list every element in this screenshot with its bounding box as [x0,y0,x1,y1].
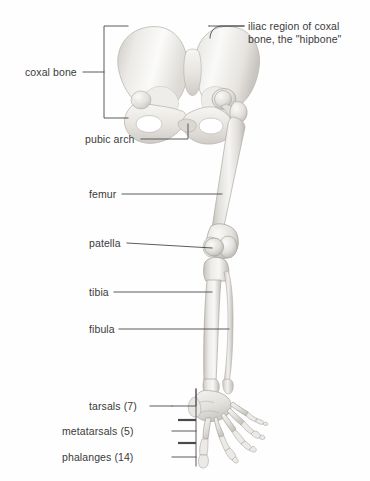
label-phalanges: phalanges (14) [62,451,133,464]
leader-patella [127,243,212,248]
label-metatarsals: metatarsals (5) [62,425,134,438]
foot-bones-group [188,390,268,468]
label-fibula: fibula [89,323,115,336]
anatomy-diagram-figure: iliac region of coxal bone, the "hipbone… [0,0,370,481]
label-iliac-region-line1: iliac region of coxal [248,20,339,32]
label-iliac-region-line2: bone, the "hipbone" [248,33,341,45]
fibula-bone [223,271,234,394]
label-tibia: tibia [89,286,109,299]
label-pubic-arch: pubic arch [85,133,134,146]
label-coxal-bone: coxal bone [25,66,77,79]
label-patella: patella [89,237,121,250]
label-iliac-region: iliac region of coxal bone, the "hipbone… [248,20,366,46]
label-tarsals: tarsals (7) [89,400,137,413]
patella-bone [205,238,224,256]
label-femur: femur [89,188,116,201]
